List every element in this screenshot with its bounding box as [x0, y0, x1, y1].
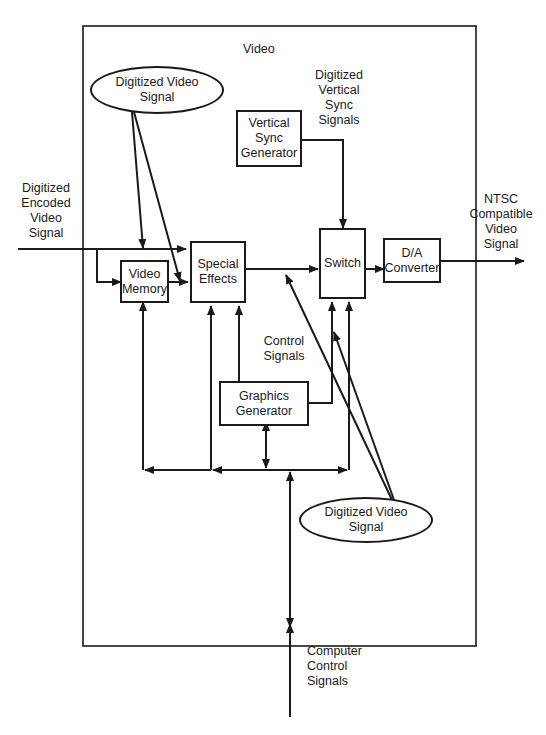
- top-digitized-video-signal-ellipse: Digitized Video Signal: [90, 66, 224, 114]
- input-signal-label: Digitized Encoded Video Signal: [18, 181, 74, 241]
- control-signals-label: Control Signals: [257, 334, 311, 364]
- container-title: Video: [243, 42, 275, 57]
- vertical-sync-generator-block: Vertical Sync Generator: [236, 110, 302, 167]
- bottom-digitized-video-signal-ellipse: Digitized Video Signal: [299, 497, 433, 543]
- special-effects-block: Special Effects: [190, 241, 246, 303]
- vertical-sync-signals-label: Digitized Vertical Sync Signals: [311, 68, 367, 128]
- da-converter-block: D/A Converter: [383, 238, 441, 283]
- switch-block: Switch: [319, 228, 366, 299]
- computer-control-signals-label: Computer Control Signals: [307, 644, 362, 689]
- video-memory-block: Video Memory: [120, 260, 169, 303]
- output-signal-label: NTSC Compatible Video Signal: [456, 192, 546, 252]
- graphics-generator-block: Graphics Generator: [219, 381, 309, 426]
